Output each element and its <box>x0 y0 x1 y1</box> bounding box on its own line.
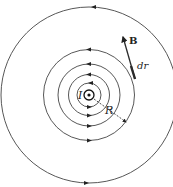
arrow-icon <box>84 181 89 185</box>
arrow-icon <box>86 73 91 77</box>
arrow-icon <box>87 124 92 128</box>
field-lines <box>1 7 173 183</box>
current-label: I <box>77 89 83 102</box>
arrow-icon <box>86 62 91 66</box>
arrow-icon <box>87 114 92 118</box>
field-label: B <box>129 35 137 46</box>
arrow-icon <box>88 81 93 85</box>
field-diagram: I R B dr <box>0 0 173 187</box>
arrow-icon <box>91 5 96 9</box>
arrow-icon <box>86 48 91 52</box>
radius-label: R <box>104 104 113 117</box>
arrow-icon <box>87 105 92 109</box>
displacement-dr <box>131 66 135 79</box>
wire-current-out-icon <box>84 90 94 100</box>
displacement-label: dr <box>137 60 149 71</box>
arrow-icon <box>87 139 92 143</box>
field-line-5 <box>1 7 173 183</box>
